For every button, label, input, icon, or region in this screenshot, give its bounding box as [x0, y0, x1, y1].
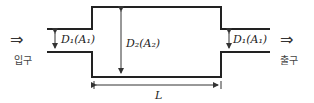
inlet-arrow-icon: ⇒ [10, 30, 23, 49]
outlet-label: 출구 [280, 52, 298, 67]
length-label: L [155, 89, 162, 102]
pipe-outline [0, 0, 314, 103]
pipe-expansion-diagram: ⇒ 입구 D₁(A₁) D₂(A₂) D₁(A₁) ⇒ 출구 L [0, 0, 314, 103]
d1-right-label: D₁(A₁) [233, 33, 267, 46]
inlet-label: 입구 [14, 52, 32, 67]
outlet-arrow-icon: ⇒ [280, 30, 293, 49]
d1-left-label: D₁(A₁) [61, 33, 95, 46]
d2-label: D₂(A₂) [126, 37, 160, 50]
